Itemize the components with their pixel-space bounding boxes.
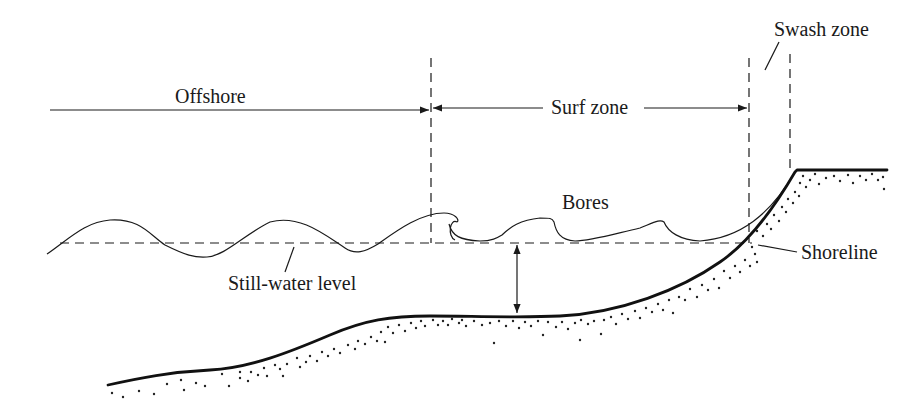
bores-label: Bores	[562, 191, 609, 213]
swash-zone-leader	[765, 42, 779, 70]
offshore-label: Offshore	[175, 85, 246, 107]
nearshore-zones-diagram: Offshore Surf zone Swash zone Still-wate…	[0, 0, 924, 402]
still-water-leader	[285, 247, 294, 272]
swash-zone-label: Swash zone	[774, 18, 869, 40]
still-water-label: Still-water level	[228, 272, 357, 294]
bore-waves-profile	[449, 172, 795, 241]
seabed-profile	[108, 170, 887, 385]
shoreline-leader	[758, 245, 797, 252]
surf-zone-label: Surf zone	[551, 96, 628, 118]
shoreline-label: Shoreline	[801, 241, 878, 263]
offshore-wave-profile	[47, 213, 458, 257]
